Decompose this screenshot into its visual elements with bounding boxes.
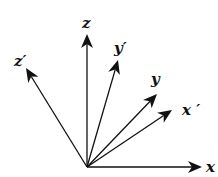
- axis-label: z: [81, 14, 91, 32]
- coordinate-axes-diagram: xx ′yy′zz′: [0, 0, 218, 177]
- axis-y: y: [87, 70, 161, 167]
- axis-x: x: [87, 158, 216, 176]
- axis-label: z′: [13, 52, 27, 70]
- axis-x-prime: x ′: [87, 101, 200, 167]
- axis-line: [87, 116, 164, 167]
- axis-label: x: [205, 158, 216, 176]
- axis-z-prime: z′: [13, 52, 87, 167]
- axis-label: y: [150, 70, 161, 88]
- axis-line: [31, 77, 87, 167]
- axis-y-prime: y′: [87, 39, 127, 167]
- axes-group: xx ′yy′zz′: [13, 14, 216, 176]
- arrowhead-icon: [26, 68, 38, 83]
- arrowhead-icon: [157, 110, 172, 123]
- axis-label: x ′: [181, 101, 200, 119]
- axis-label: y′: [113, 39, 127, 57]
- axis-z: z: [81, 14, 93, 167]
